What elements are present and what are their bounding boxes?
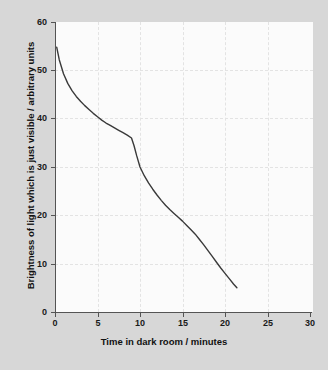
x-tick-10 bbox=[140, 313, 141, 317]
gridline-vertical-25 bbox=[268, 22, 270, 312]
y-tick-50 bbox=[51, 70, 55, 71]
y-tick-label-50: 50 bbox=[37, 66, 47, 75]
x-tick-label-5: 5 bbox=[95, 319, 100, 328]
y-tick-10 bbox=[51, 264, 55, 265]
x-tick-30 bbox=[310, 313, 311, 317]
x-tick-label-15: 15 bbox=[178, 319, 188, 328]
y-tick-40 bbox=[51, 118, 55, 119]
y-axis-line bbox=[55, 22, 56, 313]
x-tick-15 bbox=[183, 313, 184, 317]
x-tick-0 bbox=[55, 313, 56, 317]
x-tick-label-25: 25 bbox=[263, 319, 273, 328]
x-tick-label-0: 0 bbox=[52, 319, 57, 328]
y-tick-60 bbox=[51, 22, 55, 23]
y-tick-30 bbox=[51, 167, 55, 168]
y-axis-title: Brightness of light which is just visibl… bbox=[25, 21, 36, 311]
x-tick-label-20: 20 bbox=[220, 319, 230, 328]
gridline-vertical-10 bbox=[140, 22, 142, 312]
gridline-vertical-20 bbox=[225, 22, 227, 312]
x-axis-title: Time in dark room / minutes bbox=[0, 336, 328, 347]
y-tick-label-20: 20 bbox=[37, 211, 47, 220]
chart-figure: 0 10 20 30 40 50 60 0 5 10 15 20 25 30 T… bbox=[0, 0, 328, 370]
x-tick-5 bbox=[98, 313, 99, 317]
x-tick-label-10: 10 bbox=[135, 319, 145, 328]
y-tick-label-40: 40 bbox=[37, 114, 47, 123]
y-tick-label-0: 0 bbox=[42, 308, 47, 317]
y-tick-label-10: 10 bbox=[37, 260, 47, 269]
x-tick-label-30: 30 bbox=[305, 319, 315, 328]
x-tick-25 bbox=[268, 313, 269, 317]
gridline-vertical-5 bbox=[98, 22, 100, 312]
gridline-vertical-15 bbox=[183, 22, 185, 312]
x-tick-20 bbox=[225, 313, 226, 317]
y-tick-20 bbox=[51, 215, 55, 216]
y-tick-label-30: 30 bbox=[37, 163, 47, 172]
y-tick-label-60: 60 bbox=[37, 18, 47, 27]
